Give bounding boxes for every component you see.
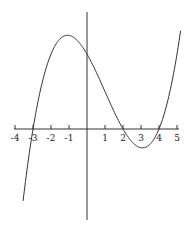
cubic-curve bbox=[23, 31, 181, 201]
x-tick-label: -1 bbox=[65, 133, 74, 143]
cubic-function-plot: -4-3-2-112345 bbox=[0, 0, 189, 229]
x-tick-label: 1 bbox=[102, 133, 108, 143]
x-tick-label: 5 bbox=[174, 133, 180, 143]
x-tick-label: 2 bbox=[120, 133, 126, 143]
x-tick-label: -2 bbox=[47, 133, 56, 143]
x-tick-label: -3 bbox=[29, 133, 38, 143]
x-tick-label: 3 bbox=[138, 133, 144, 143]
x-axis-ticks bbox=[15, 125, 177, 129]
x-tick-label: -4 bbox=[11, 133, 20, 143]
